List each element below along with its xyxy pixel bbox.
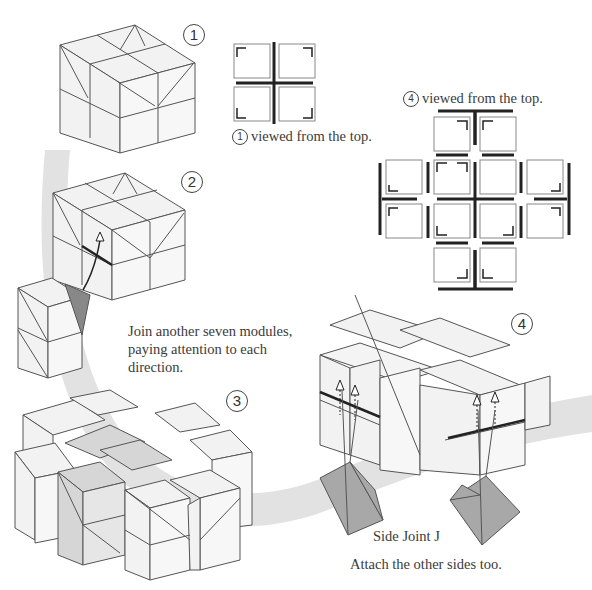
caption-top-view-1-text: viewed from the top. bbox=[251, 128, 372, 144]
step2-cube-assembly bbox=[53, 173, 185, 300]
step-badge-2: 2 bbox=[181, 171, 203, 193]
step1-cube-assembly bbox=[60, 25, 195, 153]
caption-step-ref-4: 4 bbox=[403, 91, 419, 107]
caption-top-view-1: 1viewed from the top. bbox=[232, 127, 372, 145]
caption-top-view-4-text: viewed from the top. bbox=[422, 90, 543, 106]
instruction-join-line-3: direction. bbox=[128, 358, 183, 376]
step4-top-view bbox=[380, 111, 569, 289]
caption-top-view-4: 4viewed from the top. bbox=[403, 89, 543, 107]
step2-loose-module bbox=[18, 278, 90, 378]
step1-top-view bbox=[234, 42, 315, 124]
side-joint-j-label: Side Joint J bbox=[373, 527, 440, 545]
caption-step-ref-1: 1 bbox=[232, 129, 248, 145]
instruction-join-line-2: paying attention to each bbox=[128, 340, 267, 358]
step-badge-3: 3 bbox=[226, 390, 248, 412]
instruction-join-line-1: Join another seven modules, bbox=[128, 322, 292, 340]
step-badge-1: 1 bbox=[183, 24, 205, 46]
instruction-attach: Attach the other sides too. bbox=[350, 555, 502, 573]
step-badge-4: 4 bbox=[511, 313, 533, 335]
